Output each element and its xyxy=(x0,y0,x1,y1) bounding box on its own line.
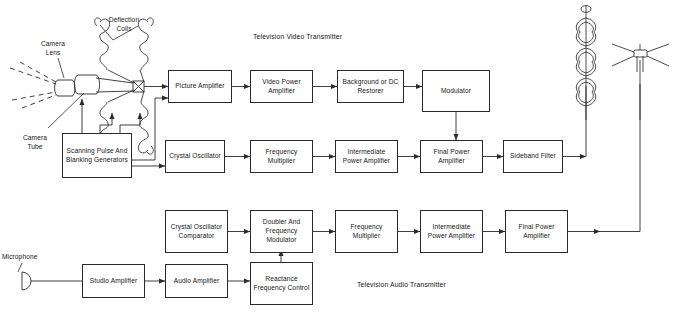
block-label: Video Power Amplifier xyxy=(253,78,310,95)
block-label: Intermediate Power Amplifier xyxy=(338,148,395,165)
block-doubler-frequency-modulator[interactable]: Doubler And Frequency Modulator xyxy=(250,210,313,253)
camera-tube-icon xyxy=(74,75,168,94)
block-frequency-multiplier-audio[interactable]: Frequency Multiplier xyxy=(335,210,398,253)
video-transmitter-title: Television Video Transmitter xyxy=(253,33,342,40)
block-label: Audio Amplifier xyxy=(168,277,225,286)
deflection-coils-label: Deflection Coils xyxy=(94,16,154,33)
block-label: Crystal Oscillator xyxy=(168,152,222,161)
block-sideband-filter[interactable]: Sideband Filter xyxy=(503,140,563,173)
block-label: Reactance Frequency Control xyxy=(253,275,310,292)
block-scanning-pulse-generators[interactable]: Scanning Pulse And Blanking Generators xyxy=(62,133,132,178)
light-rays-icon xyxy=(10,62,56,108)
block-label: Scanning Pulse And Blanking Generators xyxy=(65,147,129,164)
camera-tube-label: Camera Tube xyxy=(8,134,62,151)
block-picture-amplifier[interactable]: Picture Amplifier xyxy=(168,70,232,103)
camera-lens-label: Camera Lens xyxy=(26,40,80,57)
block-label: Background or DC Restorer xyxy=(340,78,401,95)
video-antenna-icon xyxy=(576,6,595,120)
block-label: Crystal Oscillator Comparator xyxy=(168,223,225,240)
microphone-label: Microphone xyxy=(2,253,62,262)
block-diagram-canvas: Television Video Transmitter Television … xyxy=(0,0,682,316)
block-label: Frequency Multiplier xyxy=(253,148,310,165)
block-label: Frequency Multiplier xyxy=(338,223,395,240)
block-label: Picture Amplifier xyxy=(171,82,229,91)
audio-antenna-icon xyxy=(612,44,669,120)
block-studio-amplifier[interactable]: Studio Amplifier xyxy=(82,264,145,298)
block-label: Final Power Amplifier xyxy=(423,148,480,165)
camera-lens-icon xyxy=(55,80,75,96)
camera-lens-leader xyxy=(58,58,64,78)
block-intermediate-power-amplifier-video[interactable]: Intermediate Power Amplifier xyxy=(335,140,398,173)
audio-transmitter-title: Television Audio Transmitter xyxy=(357,281,446,288)
block-label: Sideband Filter xyxy=(506,152,560,161)
block-modulator[interactable]: Modulator xyxy=(422,70,490,112)
block-frequency-multiplier-video[interactable]: Frequency Multiplier xyxy=(250,140,313,173)
block-intermediate-power-amplifier-audio[interactable]: Intermediate Power Amplifier xyxy=(420,210,483,253)
microphone-icon xyxy=(22,272,38,290)
microphone-leader xyxy=(18,263,22,272)
block-reactance-frequency-control[interactable]: Reactance Frequency Control xyxy=(250,262,313,305)
block-crystal-oscillator-comparator[interactable]: Crystal Oscillator Comparator xyxy=(165,210,228,253)
block-label: Studio Amplifier xyxy=(85,277,142,286)
block-label: Doubler And Frequency Modulator xyxy=(253,218,310,244)
block-crystal-oscillator[interactable]: Crystal Oscillator xyxy=(165,140,225,173)
block-final-power-amplifier-video[interactable]: Final Power Amplifier xyxy=(420,140,483,173)
block-audio-amplifier[interactable]: Audio Amplifier xyxy=(165,264,228,298)
block-final-power-amplifier-audio[interactable]: Final Power Amplifier xyxy=(505,210,568,253)
block-label: Intermediate Power Amplifier xyxy=(423,223,480,240)
block-label: Modulator xyxy=(425,87,487,96)
block-video-power-amplifier[interactable]: Video Power Amplifier xyxy=(250,70,313,103)
block-label: Final Power Amplifier xyxy=(508,223,565,240)
block-background-dc-restorer[interactable]: Background or DC Restorer xyxy=(337,70,404,103)
camera-tube-leader xyxy=(48,93,84,128)
